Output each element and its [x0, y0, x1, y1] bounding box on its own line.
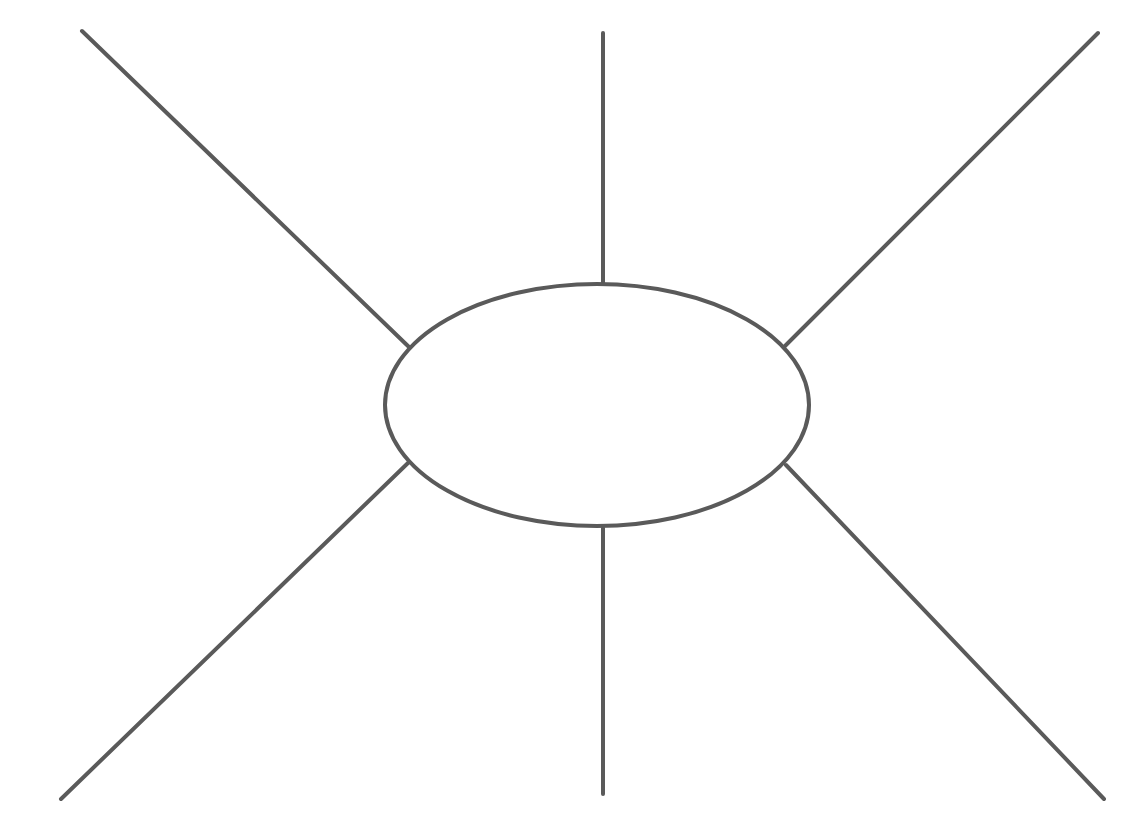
spider-diagram	[0, 0, 1145, 840]
spoke-top-left	[82, 31, 409, 347]
spoke-top-right	[785, 33, 1098, 346]
spoke-bottom-right	[786, 465, 1104, 799]
spoke-bottom-left	[61, 463, 408, 799]
center-ellipse	[385, 284, 809, 526]
